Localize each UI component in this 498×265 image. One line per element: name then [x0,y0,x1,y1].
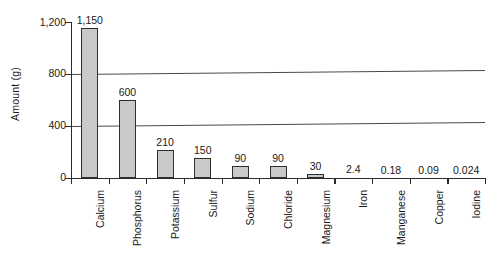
bar [232,166,249,178]
y-axis-title: Amount (g) [6,34,24,154]
x-axis-category-label: Copper [433,190,445,224]
x-axis-tick-mark [109,178,110,184]
bar-value-label: 1,150 [65,15,115,26]
x-axis-category-label: Calcium [94,190,106,228]
y-axis-tick-mark [65,178,71,179]
x-axis-category-label: Iron [357,190,369,208]
y-axis-tick-label: 1,200 [26,17,66,28]
y-axis-tick-labels: 04008001,200 [26,0,66,265]
x-axis-tick-mark [259,178,260,184]
bar-value-label: 600 [102,87,152,98]
y-axis-tick-mark [65,74,71,75]
y-axis-tick-mark [65,22,71,23]
y-axis-tick-label: 800 [26,68,66,79]
bar [194,158,211,177]
x-axis-tick-mark [297,178,298,184]
x-axis-category-label: Magnesium [320,190,332,244]
x-axis-category-label: Chloride [282,190,294,229]
y-axis-line [71,22,72,178]
bar-value-label: 0.024 [441,165,491,176]
x-axis-tick-mark [372,178,373,184]
x-axis-category-label: Iodine [470,190,482,219]
gridline [71,70,485,75]
x-axis-category-label: Sulfur [207,190,219,217]
x-axis-tick-mark [410,178,411,184]
bar-chart: Amount (g) 04008001,200 1,150Calcium600P… [0,0,498,265]
bar [157,150,174,177]
x-axis-tick-mark [222,178,223,184]
bar [119,100,136,178]
y-axis-tick-label: 0 [26,172,66,183]
y-axis-tick-label: 400 [26,120,66,131]
x-axis-category-label: Sodium [244,190,256,226]
x-axis-tick-mark [334,178,335,184]
x-axis-line [71,178,485,179]
x-axis-tick-mark [485,178,486,184]
y-axis-tick-mark [65,126,71,127]
x-axis-category-label: Phosphorus [131,190,143,246]
x-axis-category-label: Potassium [169,190,181,239]
bar [307,174,324,178]
x-axis-tick-mark [447,178,448,184]
x-axis-tick-mark [184,178,185,184]
bar [81,28,98,177]
bar [270,166,287,178]
x-axis-category-label: Manganese [395,190,407,245]
x-axis-tick-mark [71,178,72,184]
y-axis-title-text: Amount (g) [9,67,21,121]
x-axis-tick-mark [146,178,147,184]
